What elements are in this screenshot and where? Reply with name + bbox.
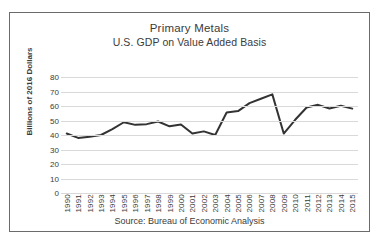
y-axis-tick: 50 [50, 116, 59, 125]
x-axis-tick: 1994 [108, 194, 117, 213]
x-axis-tick: 1996 [131, 194, 140, 213]
x-axis-tick: 2002 [200, 194, 209, 213]
x-axis-tick: 2001 [188, 194, 197, 213]
x-axis-tick: 1993 [97, 194, 106, 213]
gridline [61, 164, 358, 165]
x-axis-tick: 2000 [177, 194, 186, 213]
data-series-primary-metals [67, 94, 353, 137]
source-note: Source: Bureau of Economic Analysis [10, 216, 369, 226]
x-axis-tick: 1990 [63, 194, 72, 213]
y-axis-tick-labels: 80706050403020100 [32, 77, 59, 193]
gridline [61, 121, 358, 122]
y-axis-tick: 80 [50, 73, 59, 82]
x-axis-tick: 2012 [314, 194, 323, 213]
y-axis-tick: 10 [50, 174, 59, 183]
x-axis-tick: 2011 [303, 194, 312, 212]
x-axis-tick: 1992 [86, 194, 95, 213]
x-axis-tick: 1995 [120, 194, 129, 213]
x-axis-tick: 2010 [291, 194, 300, 213]
y-axis-tick: 0 [55, 189, 59, 198]
chart-title-block: Primary Metals U.S. GDP on Value Added B… [10, 21, 369, 49]
x-axis-tick: 1997 [143, 194, 152, 213]
gridline [61, 135, 358, 136]
y-axis-tick: 20 [50, 160, 59, 169]
x-axis-tick: 2014 [337, 194, 346, 213]
x-axis-tick: 1998 [154, 194, 163, 213]
chart-subtitle: U.S. GDP on Value Added Basis [10, 35, 369, 49]
x-axis-tick: 2009 [280, 194, 289, 213]
x-axis-tick: 2003 [211, 194, 220, 213]
x-axis-tick: 1999 [166, 194, 175, 213]
x-axis-tick: 2015 [348, 194, 357, 213]
x-axis-tick: 2007 [257, 194, 266, 213]
x-axis-tick: 2008 [268, 194, 277, 213]
plot-area [61, 77, 358, 193]
y-axis-tick: 40 [50, 131, 59, 140]
y-axis-tick: 60 [50, 102, 59, 111]
x-axis-tick: 2013 [325, 194, 334, 213]
y-axis-tick: 70 [50, 87, 59, 96]
chart-figure: Primary Metals U.S. GDP on Value Added B… [9, 12, 370, 232]
gridline [61, 179, 358, 180]
x-axis-tick: 1991 [74, 194, 83, 213]
gridline [61, 77, 358, 78]
y-axis-tick: 30 [50, 145, 59, 154]
gridline [61, 106, 358, 107]
gridline [61, 150, 358, 151]
x-axis-tick: 2004 [223, 194, 232, 213]
chart-title: Primary Metals [10, 21, 369, 35]
x-axis-tick: 2005 [234, 194, 243, 213]
x-axis-tick: 2006 [245, 194, 254, 213]
gridline [61, 92, 358, 93]
